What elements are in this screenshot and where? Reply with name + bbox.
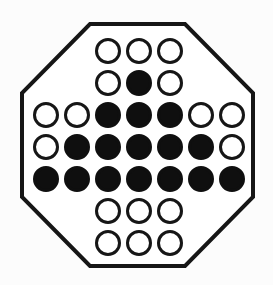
hole[interactable] bbox=[128, 200, 151, 223]
peg[interactable] bbox=[97, 136, 120, 159]
hole[interactable] bbox=[97, 232, 120, 255]
hole[interactable] bbox=[221, 104, 244, 127]
peg[interactable] bbox=[35, 168, 58, 191]
peg[interactable] bbox=[159, 136, 182, 159]
peg[interactable] bbox=[159, 104, 182, 127]
peg[interactable] bbox=[66, 168, 89, 191]
peg[interactable] bbox=[66, 136, 89, 159]
hole[interactable] bbox=[159, 72, 182, 95]
peg[interactable] bbox=[128, 72, 151, 95]
hole[interactable] bbox=[159, 232, 182, 255]
peg[interactable] bbox=[97, 168, 120, 191]
hole[interactable] bbox=[159, 40, 182, 63]
peg[interactable] bbox=[128, 136, 151, 159]
hole[interactable] bbox=[97, 200, 120, 223]
hole[interactable] bbox=[190, 104, 213, 127]
hole[interactable] bbox=[97, 72, 120, 95]
hole[interactable] bbox=[221, 136, 244, 159]
peg[interactable] bbox=[128, 104, 151, 127]
game-board-screenshot bbox=[0, 0, 273, 285]
peg[interactable] bbox=[159, 168, 182, 191]
hole[interactable] bbox=[66, 104, 89, 127]
hole[interactable] bbox=[128, 232, 151, 255]
peg[interactable] bbox=[190, 168, 213, 191]
peg-solitaire-board bbox=[0, 0, 273, 285]
peg[interactable] bbox=[190, 136, 213, 159]
hole[interactable] bbox=[128, 40, 151, 63]
hole[interactable] bbox=[35, 136, 58, 159]
hole[interactable] bbox=[97, 40, 120, 63]
peg[interactable] bbox=[97, 104, 120, 127]
hole[interactable] bbox=[159, 200, 182, 223]
hole[interactable] bbox=[35, 104, 58, 127]
peg[interactable] bbox=[221, 168, 244, 191]
peg[interactable] bbox=[128, 168, 151, 191]
